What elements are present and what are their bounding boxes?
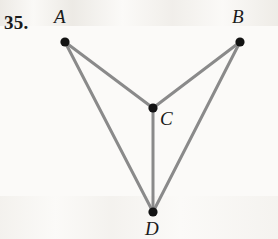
vertex-label-c: C [160,108,173,130]
edge-ac [65,42,153,108]
vertex-point-c [148,103,157,112]
vertex-label-b: B [232,6,244,28]
vertex-point-b [235,37,244,46]
vertex-point-a [60,37,69,46]
vertex-point-d [148,207,157,216]
edge-bc [153,42,240,108]
edge-ad [65,42,153,212]
vertex-label-d: D [145,218,159,239]
edges-group [65,42,240,212]
vertex-label-a: A [54,6,66,28]
figure-canvas [0,0,278,239]
geometry-figure: 35. A B C D [0,0,278,239]
